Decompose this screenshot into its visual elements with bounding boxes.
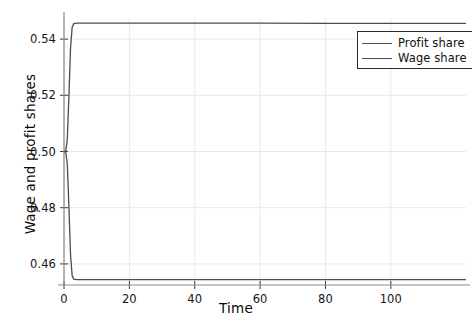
- x-axis-title: Time: [0, 300, 472, 316]
- legend-line-swatch: [362, 37, 392, 48]
- chart-legend: Profit shareWage share: [357, 31, 472, 69]
- legend-item[interactable]: Profit share: [362, 35, 467, 50]
- chart-figure: 0.460.480.500.520.54 020406080100 Time W…: [0, 0, 472, 326]
- y-tick-label: 0.46: [12, 257, 56, 271]
- tick-marks: [60, 39, 391, 289]
- series-line: [64, 152, 466, 280]
- legend-item-label: Profit share: [398, 36, 465, 50]
- y-tick-label: 0.54: [12, 32, 56, 46]
- y-axis-title: Wage and profit shares: [22, 54, 38, 254]
- legend-item-label: Wage share: [398, 51, 467, 65]
- legend-line-swatch: [362, 52, 392, 63]
- legend-item[interactable]: Wage share: [362, 50, 467, 65]
